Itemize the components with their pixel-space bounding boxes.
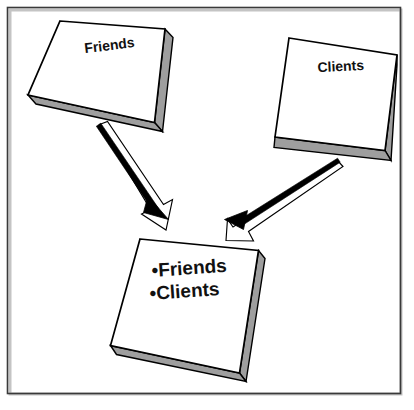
diagram-svg: Friends Clients •Friends •Clients bbox=[0, 0, 414, 410]
box-merged-list[interactable]: •Friends •Clients bbox=[111, 239, 266, 382]
box-clients-label: Clients bbox=[317, 57, 365, 75]
box-clients[interactable]: Clients bbox=[274, 38, 397, 161]
diagram-canvas: Friends Clients •Friends •Clients bbox=[0, 0, 414, 410]
box-friends[interactable]: Friends bbox=[28, 21, 173, 132]
arrow-friends-to-merged[interactable] bbox=[96, 122, 172, 231]
arrow-clients-shaft bbox=[236, 158, 340, 227]
arrow-clients-to-merged[interactable] bbox=[225, 158, 344, 241]
box-clients-top-face bbox=[275, 38, 397, 151]
